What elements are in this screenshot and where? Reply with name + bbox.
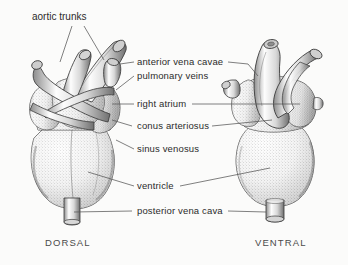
leader-posterior-vena-cava-left <box>74 211 132 212</box>
anatomy-figure: aortic trunks anterior vena cavae pulmon… <box>0 0 348 265</box>
leader-anterior-vena-cavae-left <box>120 62 134 64</box>
leader-aortic-trunks-left <box>60 26 72 62</box>
label-right-atrium: right atrium <box>137 98 186 109</box>
label-anterior-vena-cavae: anterior vena cavae <box>137 56 223 67</box>
heart-diagram-svg <box>0 0 348 265</box>
leader-sinus-venosus <box>116 140 134 149</box>
label-sinus-venosus: sinus venosus <box>137 143 199 154</box>
label-conus-arteriosus: conus arteriosus <box>137 120 209 131</box>
ventral-heart-illustration <box>221 39 324 222</box>
label-aortic-trunks: aortic trunks <box>32 11 86 22</box>
label-ventricle: ventricle <box>137 180 174 191</box>
leader-anterior-vena-cavae-right <box>228 62 258 76</box>
caption-ventral: VENTRAL <box>255 237 307 248</box>
label-pulmonary-veins: pulmonary veins <box>137 70 208 81</box>
ventral-right-auricle-nub <box>313 97 323 109</box>
caption-dorsal: DORSAL <box>45 237 91 248</box>
leader-posterior-vena-cava-right <box>228 211 266 212</box>
dorsal-heart-illustration <box>30 38 128 225</box>
label-posterior-vena-cava: posterior vena cava <box>137 205 223 216</box>
